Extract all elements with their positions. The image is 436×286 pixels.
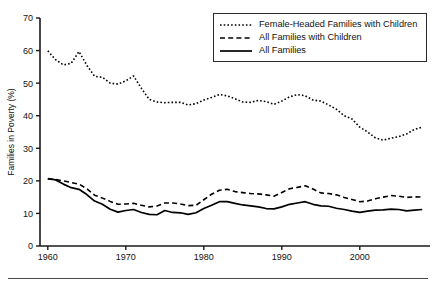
legend-label-female-headed: Female-Headed Families with Children: [259, 18, 417, 31]
x-tick-label: 1970: [116, 252, 136, 262]
y-axis-title: Families in Poverty (%): [6, 88, 16, 176]
y-tick-label: 60: [23, 46, 33, 56]
series-line-0: [48, 51, 422, 140]
y-tick-label: 0: [28, 241, 33, 251]
y-tick-label: 70: [23, 13, 33, 23]
legend-item-all-families-children: All Families with Children: [219, 31, 420, 44]
x-tick-label: 2000: [350, 252, 370, 262]
legend-sample-solid: [219, 46, 253, 56]
x-tick-label: 1960: [38, 252, 58, 262]
chart-legend: Female-Headed Families with Children All…: [213, 13, 427, 62]
x-tick-label: 1980: [194, 252, 214, 262]
legend-item-female-headed: Female-Headed Families with Children: [219, 18, 420, 31]
caption-divider: [8, 278, 428, 279]
poverty-trend-figure: 01020304050607019601970198019902000Famil…: [0, 0, 436, 286]
legend-sample-dashed: [219, 33, 253, 43]
figure-caption: [8, 281, 428, 286]
legend-sample-dotted: [219, 20, 253, 30]
y-tick-label: 50: [23, 79, 33, 89]
y-tick-label: 40: [23, 111, 33, 121]
y-tick-label: 20: [23, 176, 33, 186]
y-tick-label: 10: [23, 209, 33, 219]
x-tick-label: 1990: [272, 252, 292, 262]
legend-label-all-families: All Families: [259, 44, 306, 57]
series-line-2: [48, 179, 422, 215]
legend-item-all-families: All Families: [219, 44, 420, 57]
y-tick-label: 30: [23, 144, 33, 154]
legend-label-all-families-children: All Families with Children: [259, 31, 362, 44]
